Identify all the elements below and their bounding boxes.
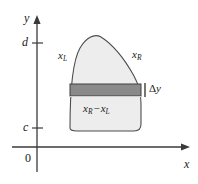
- width-operator: −: [92, 102, 100, 114]
- left-curve-sub: L: [63, 54, 67, 63]
- x-axis-arrowhead: [181, 143, 190, 150]
- y-axis-label: y: [24, 12, 29, 24]
- width-right-sub: L: [106, 107, 110, 116]
- y-tick-label-c: c: [23, 121, 28, 133]
- right-curve-label: xR: [132, 49, 141, 61]
- right-curve-sub: R: [137, 53, 142, 62]
- delta-y-variable: y: [156, 82, 161, 94]
- representative-strip: [70, 84, 141, 96]
- strip-width-label: xR−xL: [83, 103, 110, 115]
- left-curve-label: xL: [58, 50, 67, 62]
- x-axis-label: x: [184, 158, 189, 170]
- y-tick-label-d: d: [22, 36, 28, 48]
- y-axis-arrowhead: [33, 15, 40, 24]
- origin-label: 0: [25, 152, 31, 164]
- delta-y-label: Δy: [149, 83, 161, 94]
- region-shape: [70, 36, 141, 131]
- region-between-curves-figure: y x d c 0 xL xR Δy xR−xL: [0, 0, 198, 184]
